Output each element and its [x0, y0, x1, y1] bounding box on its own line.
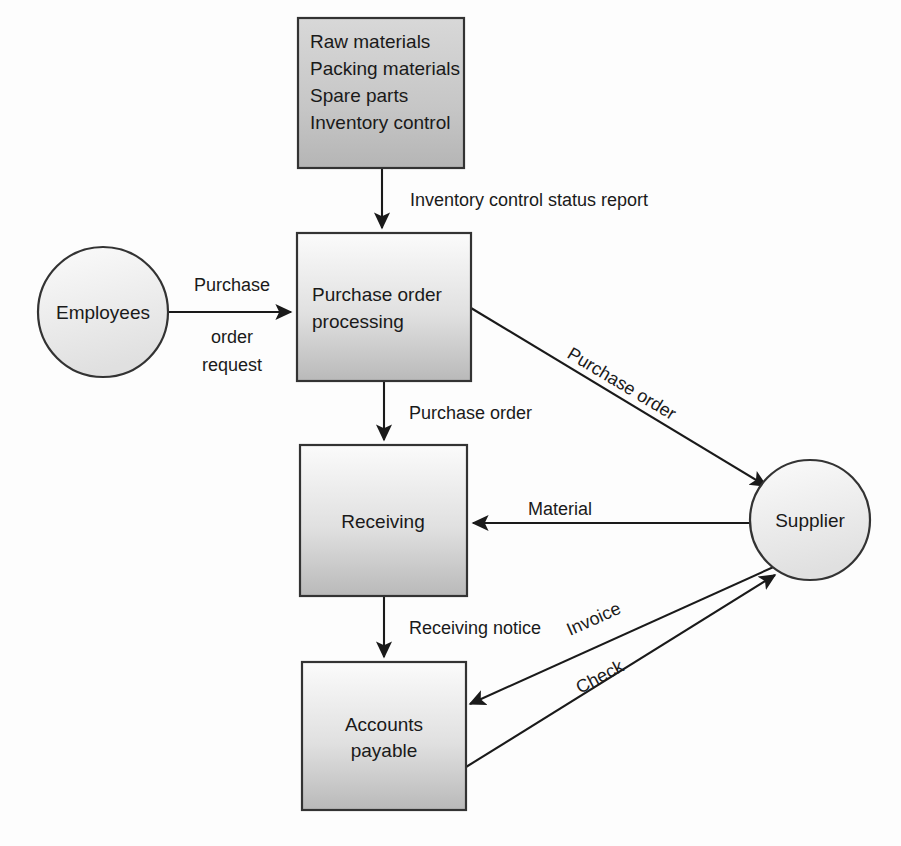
employees-label: Employees	[56, 302, 150, 323]
node-employees[interactable]: Employees	[38, 247, 168, 377]
purchase-order-processing-line-2: processing	[312, 311, 404, 332]
supplier-label: Supplier	[775, 510, 845, 531]
edge-po-to-supplier: Purchase order	[471, 308, 766, 486]
edge-label-purchase-line3: request	[202, 355, 262, 375]
node-inventory-sources[interactable]: Raw materials Packing materials Spare pa…	[298, 18, 464, 168]
edge-po-to-receiving: Purchase order	[384, 381, 532, 440]
node-purchase-order-processing[interactable]: Purchase order processing	[297, 233, 471, 381]
flowchart-svg: Inventory control status report Purchase…	[0, 0, 901, 846]
edge-label-check: Check	[572, 655, 627, 697]
accounts-payable-box[interactable]	[302, 662, 466, 810]
edge-label-receiving-notice: Receiving notice	[409, 618, 541, 638]
inventory-sources-line-3: Spare parts	[310, 85, 408, 106]
inventory-sources-line-4: Inventory control	[310, 112, 450, 133]
edge-ap-to-supplier-check: Check	[466, 575, 775, 767]
edge-employees-to-po: Purchase order request	[168, 275, 291, 375]
purchase-order-processing-line-1: Purchase order	[312, 284, 443, 305]
accounts-payable-line-2: payable	[351, 740, 418, 761]
purchase-order-processing-box[interactable]	[297, 233, 471, 381]
edge-inventory-to-po: Inventory control status report	[382, 168, 648, 228]
edge-label-purchase-line1: Purchase	[194, 275, 270, 295]
edge-label-inventory-status-report: Inventory control status report	[410, 190, 648, 210]
edge-supplier-to-receiving: Material	[473, 499, 750, 523]
edge-label-material: Material	[528, 499, 592, 519]
inventory-sources-line-1: Raw materials	[310, 31, 430, 52]
node-supplier[interactable]: Supplier	[750, 460, 870, 580]
edge-label-purchase-order-to-receiving: Purchase order	[409, 403, 532, 423]
edge-label-purchase-line2: order	[211, 327, 253, 347]
accounts-payable-line-1: Accounts	[345, 714, 423, 735]
node-accounts-payable[interactable]: Accounts payable	[302, 662, 466, 810]
edge-label-invoice: Invoice	[563, 598, 623, 639]
inventory-sources-line-2: Packing materials	[310, 58, 460, 79]
node-receiving[interactable]: Receiving	[300, 445, 467, 596]
receiving-label: Receiving	[341, 511, 424, 532]
flowchart-canvas: Inventory control status report Purchase…	[0, 0, 901, 846]
edge-receiving-to-ap: Receiving notice	[384, 596, 541, 657]
edge-label-purchase-order-to-supplier: Purchase order	[564, 343, 680, 424]
